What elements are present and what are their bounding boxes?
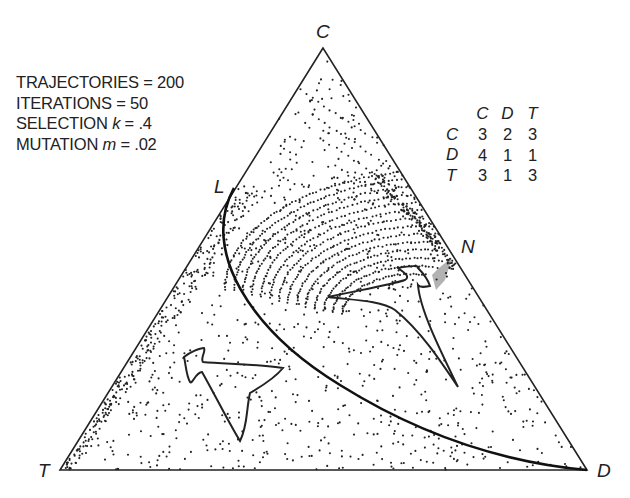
trajectory-outline-left (184, 348, 283, 441)
payoff-cell: 3 (520, 125, 545, 146)
param-value: = .4 (125, 114, 152, 132)
param-value: = .02 (120, 135, 156, 153)
param-label: MUTATION (16, 135, 98, 153)
param-mutation: MUTATION m = .02 (16, 134, 184, 155)
payoff-row-header: T (446, 166, 470, 187)
payoff-cell: 1 (495, 145, 520, 166)
param-label: ITERATIONS (16, 94, 112, 112)
payoff-cell: 3 (470, 166, 495, 187)
param-value: = 50 (116, 94, 148, 112)
payoff-cell: 4 (470, 145, 495, 166)
payoff-matrix: C D T C 3 2 3 D 4 1 1 T 3 1 3 (446, 104, 545, 186)
payoff-row-header: C (446, 125, 470, 146)
parameter-list: TRAJECTORIES = 200 ITERATIONS = 50 SELEC… (16, 72, 184, 154)
payoff-col-header: D (495, 104, 520, 125)
param-label: SELECTION (16, 114, 108, 132)
separatrix-curve (223, 188, 587, 470)
payoff-row: D 4 1 1 (446, 145, 545, 166)
param-selection: SELECTION k = .4 (16, 113, 184, 134)
payoff-cell: 1 (520, 145, 545, 166)
payoff-row: T 3 1 3 (446, 166, 545, 187)
payoff-col-header: C (470, 104, 495, 125)
payoff-row: C 3 2 3 (446, 125, 545, 146)
payoff-cell: 3 (470, 125, 495, 146)
payoff-row-header: D (446, 145, 470, 166)
param-trajectories: TRAJECTORIES = 200 (16, 72, 184, 93)
vertex-label-t: T (38, 460, 50, 482)
param-value: = 200 (143, 73, 184, 91)
vertex-label-d: D (597, 460, 611, 482)
vertex-label-c: C (316, 21, 330, 43)
payoff-cell: 3 (520, 166, 545, 187)
point-label-l: L (214, 176, 225, 198)
payoff-col-header: T (520, 104, 545, 125)
param-label: TRAJECTORIES (16, 73, 139, 91)
payoff-cell: 2 (495, 125, 520, 146)
param-iterations: ITERATIONS = 50 (16, 93, 184, 114)
payoff-cell: 1 (495, 166, 520, 187)
point-label-n: N (461, 236, 475, 258)
param-symbol: m (103, 135, 117, 153)
param-symbol: k (112, 114, 120, 132)
payoff-header-row: C D T (446, 104, 545, 125)
payoff-corner (446, 104, 470, 125)
cluster-near-n (432, 258, 452, 290)
